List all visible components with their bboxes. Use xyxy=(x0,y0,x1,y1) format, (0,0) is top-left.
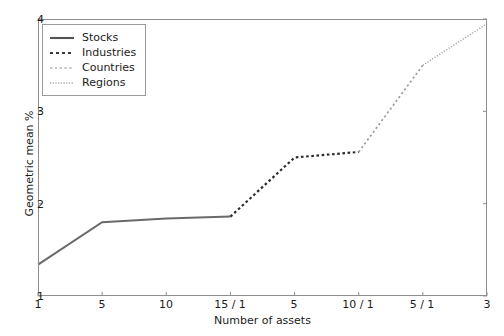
y-axis-label: Geometric mean % xyxy=(24,94,35,234)
ytick-label-3: 4 xyxy=(0,14,44,25)
xtick-label-4: 5 xyxy=(291,299,298,310)
xtick-label-7: 3 xyxy=(484,299,491,310)
xtick-label-3: 15 / 1 xyxy=(214,299,246,310)
xtick-label-2: 10 xyxy=(159,299,173,310)
legend-line-sample-dashdot xyxy=(49,62,75,74)
legend-label-regions: Regions xyxy=(82,77,125,88)
ytick-label-0: 1 xyxy=(0,291,44,302)
xtick-label-1: 5 xyxy=(99,299,106,310)
xtick-label-5: 10 / 1 xyxy=(342,299,374,310)
legend-label-industries: Industries xyxy=(82,47,136,58)
legend-label-countries: Countries xyxy=(82,62,135,73)
legend-line-sample-solid xyxy=(49,32,75,44)
legend-label-stocks: Stocks xyxy=(82,32,118,43)
x-axis-label: Number of assets xyxy=(38,315,487,326)
legend-line-sample-dashed xyxy=(49,47,75,59)
legend-item-countries: Countries xyxy=(49,60,136,75)
chart-legend: Stocks Industries Countries Regions xyxy=(42,24,146,96)
legend-item-industries: Industries xyxy=(49,45,136,60)
xtick-label-6: 5 / 1 xyxy=(410,299,435,310)
legend-item-stocks: Stocks xyxy=(49,30,136,45)
legend-line-sample-dotted xyxy=(49,77,75,89)
chart-figure: 1 5 10 15 / 1 5 10 / 1 5 / 1 3 1 2 3 4 N… xyxy=(0,0,504,336)
legend-item-regions: Regions xyxy=(49,75,136,90)
